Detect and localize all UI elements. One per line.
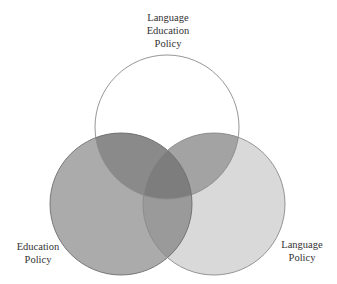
- label-line: Policy: [270, 251, 334, 264]
- label-education-policy: Education Policy: [4, 240, 72, 266]
- label-language-policy: Language Policy: [270, 238, 334, 264]
- label-line: Policy: [128, 37, 208, 50]
- label-line: Education: [4, 240, 72, 253]
- label-language-education-policy: Language Education Policy: [128, 11, 208, 50]
- label-line: Language: [128, 11, 208, 24]
- label-line: Language: [270, 238, 334, 251]
- label-line: Education: [128, 24, 208, 37]
- label-line: Policy: [4, 253, 72, 266]
